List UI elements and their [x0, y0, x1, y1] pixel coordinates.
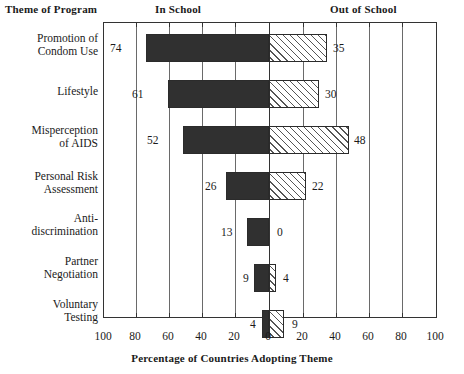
gridline-right-20: [303, 23, 304, 317]
category-label-partner-negotiation: Partner Negotiation: [0, 255, 98, 280]
bar-in-school-anti-discrimination: [247, 218, 269, 246]
tick-top-3: [202, 22, 203, 27]
xtick-label-10: 100: [418, 330, 452, 342]
value-label-in-school-misperception-of-aids: 52: [147, 134, 159, 146]
bar-in-school-personal-risk-assessment: [226, 172, 269, 200]
xtick-label-1: 80: [118, 330, 152, 342]
category-label-anti-discrimination: Anti- discrimination: [0, 212, 98, 237]
value-label-out-of-school-anti-discrimination: 0: [277, 226, 283, 238]
category-label-personal-risk-assessment: Personal Risk Assessment: [0, 170, 98, 195]
column-header-out-of-school: Out of School: [330, 3, 397, 15]
value-label-in-school-anti-discrimination: 13: [221, 226, 233, 238]
tick-top-8: [369, 22, 370, 27]
column-header-in-school: In School: [155, 3, 201, 15]
value-label-in-school-promotion-of-condom-use: 74: [110, 42, 122, 54]
tick-bottom-1: [136, 313, 137, 318]
value-label-in-school-voluntary-testing: 4: [250, 318, 256, 330]
tick-top-9: [402, 22, 403, 27]
chart-container: Theme of Program In School Out of School…: [0, 0, 464, 374]
tick-bottom-8: [369, 313, 370, 318]
bar-out-of-school-personal-risk-assessment: [269, 172, 306, 200]
xtick-label-2: 60: [151, 330, 185, 342]
tick-bottom-9: [402, 313, 403, 318]
value-label-out-of-school-misperception-of-aids: 48: [354, 134, 366, 146]
tick-top-1: [136, 22, 137, 27]
gridline-right-80: [402, 23, 403, 317]
bar-in-school-promotion-of-condom-use: [146, 34, 269, 62]
value-label-out-of-school-promotion-of-condom-use: 35: [333, 42, 345, 54]
bar-out-of-school-misperception-of-aids: [269, 126, 349, 154]
bar-in-school-misperception-of-aids: [183, 126, 269, 154]
category-label-promotion-of-condom-use: Promotion of Condom Use: [0, 32, 98, 57]
gridline-left-60: [169, 23, 170, 317]
value-label-out-of-school-lifestyle: 30: [325, 88, 337, 100]
bar-out-of-school-lifestyle: [269, 80, 319, 108]
value-label-out-of-school-partner-negotiation: 4: [283, 272, 289, 284]
tick-top-4: [235, 22, 236, 27]
gridline-right-40: [336, 23, 337, 317]
xtick-label-0: 100: [86, 330, 120, 342]
category-label-misperception-of-aids: Misperception of AIDS: [0, 124, 98, 149]
value-label-out-of-school-voluntary-testing: 9: [292, 318, 298, 330]
gridline-right-60: [369, 23, 370, 317]
xtick-label-6: 20: [285, 330, 319, 342]
gridline-left-40: [202, 23, 203, 317]
plot-area: [103, 22, 437, 318]
xtick-label-4: 20: [217, 330, 251, 342]
tick-top-6: [303, 22, 304, 27]
value-label-out-of-school-personal-risk-assessment: 22: [312, 180, 324, 192]
xtick-label-8: 60: [351, 330, 385, 342]
tick-top-7: [336, 22, 337, 27]
tick-top-2: [169, 22, 170, 27]
column-header-theme: Theme of Program: [5, 3, 97, 15]
bar-out-of-school-promotion-of-condom-use: [269, 34, 327, 62]
xtick-label-3: 40: [184, 330, 218, 342]
tick-bottom-2: [169, 313, 170, 318]
tick-bottom-3: [202, 313, 203, 318]
xtick-label-5: 0: [251, 330, 285, 342]
value-label-in-school-lifestyle: 61: [132, 88, 144, 100]
tick-top-5: [269, 22, 270, 27]
bar-in-school-lifestyle: [168, 80, 269, 108]
xtick-label-9: 80: [384, 330, 418, 342]
tick-bottom-4: [235, 313, 236, 318]
category-label-lifestyle: Lifestyle: [0, 85, 98, 98]
xtick-label-7: 40: [318, 330, 352, 342]
tick-bottom-6: [303, 313, 304, 318]
value-label-in-school-partner-negotiation: 9: [243, 272, 249, 284]
bar-out-of-school-partner-negotiation: [269, 264, 276, 292]
bar-in-school-partner-negotiation: [254, 264, 269, 292]
tick-bottom-7: [336, 313, 337, 318]
category-label-voluntary-testing: Voluntary Testing: [0, 298, 98, 323]
x-axis-title: Percentage of Countries Adopting Theme: [0, 352, 464, 364]
gridline-left-80: [136, 23, 137, 317]
gridline-left-20: [235, 23, 236, 317]
value-label-in-school-personal-risk-assessment: 26: [205, 180, 217, 192]
